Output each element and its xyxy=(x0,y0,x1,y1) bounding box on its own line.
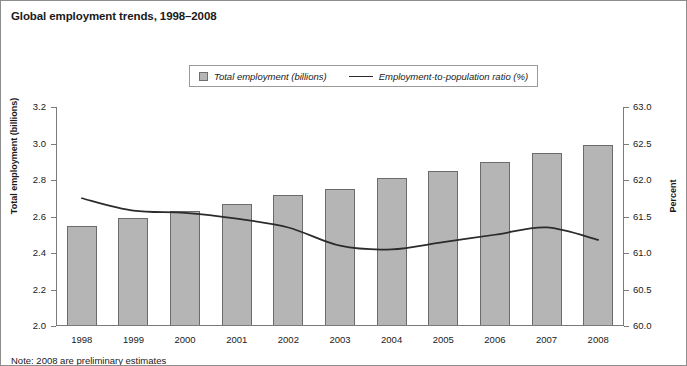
x-axis-line xyxy=(56,325,624,326)
chart-figure: Global employment trends, 1998–2008 Tota… xyxy=(0,0,687,366)
legend-entry-bar: Total employment (billions) xyxy=(199,71,327,82)
x-tick-label-1999: 1999 xyxy=(108,334,158,345)
y-tick-right-61.5 xyxy=(624,217,629,218)
x-tick-label-2003: 2003 xyxy=(315,334,365,345)
legend-label-bar: Total employment (billions) xyxy=(214,71,327,82)
y-tick-label-left-3.2: 3.2 xyxy=(33,101,46,112)
y-tick-right-60.5 xyxy=(624,290,629,291)
plot-area xyxy=(56,107,624,326)
chart-legend: Total employment (billions) Employment-t… xyxy=(189,65,538,87)
y-tick-right-63.0 xyxy=(624,107,629,108)
x-tick-label-1998: 1998 xyxy=(57,334,107,345)
y-tick-left-2.0 xyxy=(51,326,56,327)
y-tick-right-61.0 xyxy=(624,253,629,254)
chart-note: Note: 2008 are preliminary estimates xyxy=(11,355,166,366)
y-tick-label-left-2.4: 2.4 xyxy=(33,247,46,258)
y-tick-label-left-2.6: 2.6 xyxy=(33,211,46,222)
y-tick-label-right-63.0: 63.0 xyxy=(633,101,652,112)
legend-label-line: Employment-to-population ratio (%) xyxy=(379,71,528,82)
legend-entry-line: Employment-to-population ratio (%) xyxy=(349,71,528,82)
y-tick-label-left-2.8: 2.8 xyxy=(33,174,46,185)
x-tick-label-2005: 2005 xyxy=(418,334,468,345)
x-tick-label-2002: 2002 xyxy=(263,334,313,345)
x-tick-label-2001: 2001 xyxy=(212,334,262,345)
y-axis-title-left: Total employment (billions) xyxy=(9,86,19,226)
y-tick-right-60.0 xyxy=(624,326,629,327)
y-tick-label-right-62.0: 62.0 xyxy=(633,174,652,185)
y-axis-title-right: Percent xyxy=(668,136,678,256)
y-tick-label-right-60.5: 60.5 xyxy=(633,284,652,295)
ratio-line-path xyxy=(82,198,598,249)
x-tick-label-2006: 2006 xyxy=(470,334,520,345)
y-tick-label-right-60.0: 60.0 xyxy=(633,320,652,331)
page-title: Global employment trends, 1998–2008 xyxy=(11,10,217,22)
y-tick-label-right-61.5: 61.5 xyxy=(633,211,652,222)
y-tick-label-left-2.0: 2.0 xyxy=(33,320,46,331)
x-tick-label-2008: 2008 xyxy=(573,334,623,345)
line-series xyxy=(56,107,624,326)
x-tick-label-2000: 2000 xyxy=(160,334,210,345)
y-tick-label-right-61.0: 61.0 xyxy=(633,247,652,258)
x-tick-label-2004: 2004 xyxy=(367,334,417,345)
legend-line-icon xyxy=(349,76,373,77)
x-tick-label-2007: 2007 xyxy=(522,334,572,345)
y-tick-label-left-2.2: 2.2 xyxy=(33,284,46,295)
legend-swatch-icon xyxy=(199,72,208,81)
y-tick-right-62.0 xyxy=(624,180,629,181)
y-tick-label-right-62.5: 62.5 xyxy=(633,138,652,149)
y-tick-label-left-3.0: 3.0 xyxy=(33,138,46,149)
y-tick-right-62.5 xyxy=(624,144,629,145)
